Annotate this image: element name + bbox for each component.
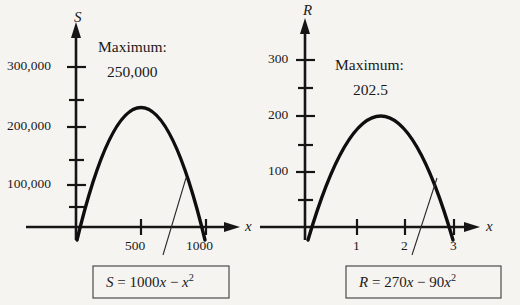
formula-var1-left: x xyxy=(159,274,166,290)
y-axis-label-left: S xyxy=(74,10,82,25)
leader-line-left xyxy=(163,178,186,255)
formula-text-left: S = 1000x − x2 xyxy=(106,273,194,290)
formula-lhs-left: S xyxy=(106,274,114,290)
maximum-value-left: 250,000 xyxy=(107,64,157,80)
maximum-title-right: Maximum: xyxy=(335,57,404,73)
y-ticklabel-300-right: 300 xyxy=(268,52,288,66)
x-axis-arrowhead-left xyxy=(224,222,240,232)
formula-lhs-right: R xyxy=(359,274,368,290)
x-ticklabel-2-right: 2 xyxy=(401,239,408,253)
formula-eq-left: = xyxy=(117,274,125,290)
formula-var1-right: x xyxy=(407,274,414,290)
formula-coef-a-right: 270 xyxy=(384,274,407,290)
x-ticklabel-500-left: 500 xyxy=(125,239,145,253)
y-ticklabel-300000-left: 300,000 xyxy=(7,59,51,73)
x-ticklabel-1-right: 1 xyxy=(353,239,360,253)
x-axis-arrowhead-right xyxy=(464,222,480,232)
formula-minus-left: − xyxy=(170,274,178,290)
formula-text-right: R = 270x − 90x2 xyxy=(359,273,456,290)
formula-exponent-left: 2 xyxy=(189,272,194,283)
formula-var2-right: x xyxy=(444,274,451,290)
maximum-title-left: Maximum: xyxy=(98,39,167,55)
chart-right-graphic xyxy=(260,0,520,305)
y-ticklabel-100000-left: 100,000 xyxy=(7,177,51,191)
leader-line-right xyxy=(412,178,437,255)
formula-coef-b-right: 90 xyxy=(429,274,444,290)
chart-panel-right: R x 300 200 100 1 2 3 Maximum: 202.5 R =… xyxy=(260,0,520,305)
formula-coef-a-left: 1000 xyxy=(129,274,159,290)
formula-minus-right: − xyxy=(417,274,425,290)
y-axis-arrowhead-right xyxy=(300,18,310,34)
formula-eq-right: = xyxy=(372,274,380,290)
x-ticklabel-1000-left: 1000 xyxy=(186,239,213,253)
x-ticklabel-3-right: 3 xyxy=(450,239,457,253)
y-ticklabel-100-right: 100 xyxy=(268,164,288,178)
x-axis-label-left: x xyxy=(245,219,252,234)
y-ticklabel-200-right: 200 xyxy=(268,108,288,122)
chart-panel-left: S x 300,000 200,000 100,000 500 1000 Max… xyxy=(0,0,260,305)
maximum-value-right: 202.5 xyxy=(353,82,388,98)
y-ticklabel-200000-left: 200,000 xyxy=(7,119,51,133)
textbook-figure: S x 300,000 200,000 100,000 500 1000 Max… xyxy=(0,0,520,305)
formula-var2-left: x xyxy=(182,274,189,290)
parabola-curve-right xyxy=(308,116,453,240)
x-axis-label-right: x xyxy=(486,219,493,234)
formula-exponent-right: 2 xyxy=(451,272,456,283)
y-axis-label-right: R xyxy=(303,3,312,18)
